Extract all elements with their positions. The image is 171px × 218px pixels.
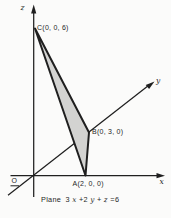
caption-word-plane: Plane [41,195,63,204]
z-axis-label: z [21,4,25,12]
figure-caption: Plane 3 x +2 y + z =6 [41,196,119,204]
caption-coeff-3: 3 [66,195,70,204]
y-axis-label: y [156,77,160,85]
y-axis-arrowhead-icon [146,82,155,90]
x-axis-label: x [160,178,164,186]
caption-equals-6: =6 [110,195,119,204]
caption-var-z: z [104,195,108,204]
caption-plus: + [97,195,102,204]
point-label-c: C(0, 0, 6) [37,24,69,31]
point-label-b: B(0, 3, 0) [92,128,123,135]
caption-var-x: x [72,195,76,204]
point-label-a: A(2, 0, 0) [73,180,104,187]
plane-intercepts-figure: z y x O C(0, 0, 6) B(0, 3, 0) A(2, 0, 0)… [0,0,171,218]
z-axis-arrowhead-icon [31,5,36,14]
caption-var-y: y [90,195,94,204]
caption-plus-2: +2 [79,195,88,204]
origin-label: O [12,177,18,184]
